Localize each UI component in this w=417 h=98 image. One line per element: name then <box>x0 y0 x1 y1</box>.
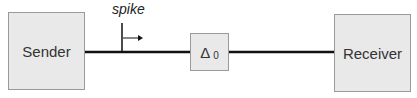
spike-label: spike <box>112 1 145 17</box>
delay-subscript: 0 <box>213 50 219 61</box>
delay-symbol: Δ <box>200 44 210 61</box>
spike-arrow-head <box>138 35 143 41</box>
receiver-node: Receiver <box>334 14 411 92</box>
sender-label: Sender <box>22 43 70 60</box>
receiver-label: Receiver <box>343 45 402 62</box>
sender-node: Sender <box>8 12 85 90</box>
delay-node: Δ0 <box>190 33 229 71</box>
